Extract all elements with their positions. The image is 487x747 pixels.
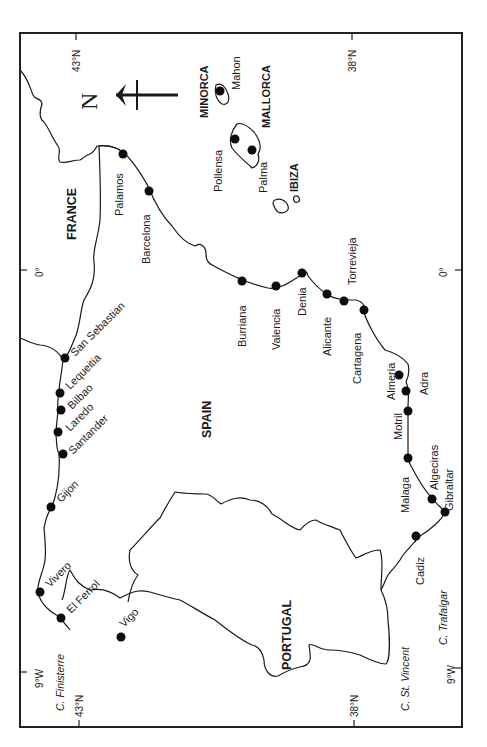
port-dot-adra	[402, 387, 411, 396]
cape-label-finisterre: C. Finisterre	[54, 654, 66, 711]
port-label-palamos: Palamos	[113, 173, 125, 216]
port-dot-algeciras	[428, 495, 437, 504]
port-label-algeciras: Algeciras	[428, 444, 440, 490]
port-dot-bilbao	[57, 406, 66, 415]
island-formentera	[294, 196, 300, 203]
port-dot-malaga	[404, 454, 413, 463]
port-label-gibraltar: Gibraltar	[443, 468, 455, 511]
port-dot-vigo	[117, 633, 126, 642]
port-label-cadiz: Cadiz	[414, 557, 426, 585]
port-label-almeria: Almeria	[385, 362, 397, 400]
port-label-denia: Denia	[296, 286, 308, 316]
port-label-burriana: Burriana	[236, 305, 248, 347]
port-label-malaga: Malaga	[399, 476, 411, 513]
tick-label-right-0: 0°	[438, 267, 449, 277]
port-dot-palma	[248, 146, 257, 155]
port-dot-san-sebastian	[61, 354, 70, 363]
tick-label-bottom-43n: 43°N	[74, 695, 85, 717]
port-label-torrevieja: Torrevieja	[346, 236, 358, 285]
country-label-france: FRANCE	[65, 188, 79, 240]
port-label-cartagena: Cartagena	[351, 332, 363, 384]
border-portugal-spain-inland	[128, 492, 382, 602]
port-label-motril: Motril	[392, 413, 404, 440]
port-dot-gijon	[47, 503, 56, 512]
port-dot-mahon	[216, 87, 225, 96]
tick-label-left-9w: 9°W	[34, 668, 45, 688]
tick-label-top-43n: 43°N	[71, 50, 82, 72]
cape-label-trafalgar: C. Trafalgar	[437, 590, 449, 645]
tick-label-bottom-38n: 38°N	[349, 695, 360, 717]
port-dot-palamos	[119, 150, 128, 159]
port-label-san-sebastian: San Sebastian	[68, 299, 127, 358]
tick-label-left-0: 0°	[34, 267, 45, 277]
tick-label-right-9w: 9°W	[446, 664, 457, 684]
border-france-spain	[20, 146, 100, 360]
north-letter: N	[76, 93, 102, 110]
island-ibiza	[273, 199, 288, 213]
port-dot-lequeitia	[56, 389, 65, 398]
port-dot-valencia	[272, 282, 281, 291]
north-arrow: N	[76, 80, 178, 110]
port-dot-alicante	[323, 290, 332, 299]
port-dot-barcelona	[145, 187, 154, 196]
spain-ports-map: 43°N 38°N 43°N 38°N 0° 0° 9°W 9°W N FRAN…	[0, 0, 487, 747]
port-label-vigo: Vigo	[117, 605, 141, 629]
port-dot-motril	[404, 407, 413, 416]
island-label-mallorca: MALLORCA	[260, 65, 272, 128]
island-mallorca	[230, 123, 260, 168]
island-label-ibiza: IBIZA	[288, 163, 300, 192]
port-label-valencia: Valencia	[270, 308, 282, 350]
port-label-mahon: Mahon	[230, 56, 242, 90]
port-dot-cartagena	[360, 306, 369, 315]
island-label-minorca: MINORCA	[198, 65, 210, 118]
tick-label-top-38n: 38°N	[347, 50, 358, 72]
port-label-alicante: Alicante	[321, 317, 333, 356]
port-dot-vivero	[36, 588, 45, 597]
coast-spain-southwest	[381, 540, 416, 590]
border-portugal	[62, 570, 389, 676]
port-dot-cadiz	[412, 532, 421, 541]
port-label-vivero: Vivero	[43, 559, 73, 589]
country-label-portugal: PORTUGAL	[280, 600, 294, 671]
port-dot-torrevieja	[340, 297, 349, 306]
port-dot-el-ferrol	[57, 614, 66, 623]
port-dot-denia	[298, 269, 307, 278]
cape-label-st-vincent: C. St. Vincent	[399, 646, 411, 711]
port-label-adra: Adra	[418, 371, 430, 395]
port-dot-burriana	[238, 277, 247, 286]
port-dot-pollensa	[231, 135, 240, 144]
port-dot-laredo	[54, 428, 63, 437]
port-label-pollensa: Pollensa	[212, 149, 224, 192]
port-label-palma: Palma	[257, 161, 269, 193]
port-label-barcelona: Barcelona	[140, 214, 152, 264]
country-label-spain: SPAIN	[200, 401, 214, 438]
port-label-el-ferrol: El Ferrol	[64, 578, 102, 616]
coast-france-mediterranean	[20, 70, 116, 163]
port-dot-santander	[59, 450, 68, 459]
